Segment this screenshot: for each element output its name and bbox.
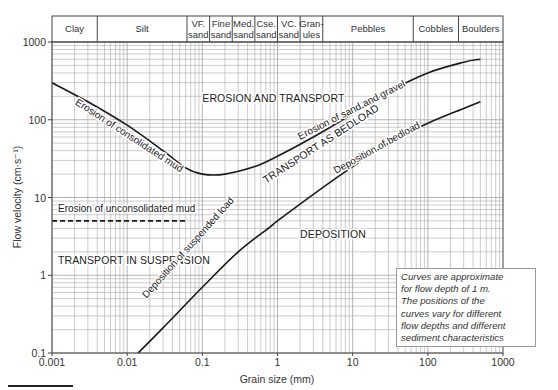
region-label: EROSION AND TRANSPORT bbox=[202, 92, 345, 104]
approximation-note: Curves are approximate for flow depth of… bbox=[396, 268, 536, 347]
note-line: sediment characteristics bbox=[401, 332, 531, 344]
curve-label: Erosion of sand and gravel bbox=[296, 78, 407, 142]
grain-class-label: Gran- bbox=[299, 18, 323, 29]
note-line: curves vary for different bbox=[401, 308, 531, 320]
grain-class-header: ClaySiltVF.sandFinesandMed.sandCse.sandV… bbox=[52, 16, 503, 42]
region-label: DEPOSITION bbox=[300, 228, 366, 240]
grain-class-label: Fine bbox=[212, 18, 230, 29]
x-axis-ticks: 0.0010.010.11101001000 bbox=[39, 353, 515, 368]
grain-class-label: Silt bbox=[136, 23, 150, 34]
x-tick-label: 10 bbox=[347, 356, 359, 368]
curve-label: Erosion of unconsolidated mud bbox=[58, 203, 195, 214]
y-tick-label: 10 bbox=[34, 192, 46, 204]
x-tick-label: 0.01 bbox=[117, 356, 138, 368]
x-tick-label: 1000 bbox=[491, 356, 515, 368]
grain-class-label: VC. bbox=[281, 18, 297, 29]
grain-class-label: Pebbles bbox=[351, 23, 386, 34]
y-axis-ticks: 0.11101001000 bbox=[23, 36, 52, 359]
x-tick-label: 1 bbox=[275, 356, 281, 368]
x-tick-label: 0.1 bbox=[195, 356, 210, 368]
grain-class-label: VF. bbox=[191, 18, 205, 29]
grain-class-label: sand bbox=[279, 29, 300, 40]
y-tick-label: 100 bbox=[28, 114, 46, 126]
y-axis-title: Flow velocity (cm·s⁻¹) bbox=[11, 146, 23, 248]
y-tick-label: 1 bbox=[40, 269, 46, 281]
grain-class-label: sand bbox=[211, 29, 232, 40]
grain-class-label: Cse. bbox=[256, 18, 276, 29]
x-axis-title: Grain size (mm) bbox=[240, 373, 315, 385]
grain-class-label: Clay bbox=[65, 23, 84, 34]
grain-class-label: Med. bbox=[233, 18, 254, 29]
grain-class-label: ules bbox=[303, 29, 321, 40]
grain-class-label: sand bbox=[233, 29, 254, 40]
curve-label: Erosion of consolidated mud bbox=[74, 96, 186, 174]
grain-class-label: sand bbox=[256, 29, 277, 40]
chart-annotations: Erosion of consolidated mudEROSION AND T… bbox=[58, 78, 422, 300]
grain-class-label: sand bbox=[188, 29, 209, 40]
grain-class-label: Boulders bbox=[462, 23, 500, 34]
x-tick-label: 100 bbox=[419, 356, 437, 368]
note-line: for flow depth of 1 m. bbox=[401, 283, 531, 295]
grain-class-label: Cobbles bbox=[418, 23, 453, 34]
scale-bar bbox=[8, 385, 73, 387]
note-line: flow depths and different bbox=[401, 320, 531, 332]
x-tick-label: 0.001 bbox=[39, 356, 65, 368]
note-line: The positions of the bbox=[401, 295, 531, 307]
y-tick-label: 1000 bbox=[23, 36, 47, 48]
note-line: Curves are approximate bbox=[401, 271, 531, 283]
